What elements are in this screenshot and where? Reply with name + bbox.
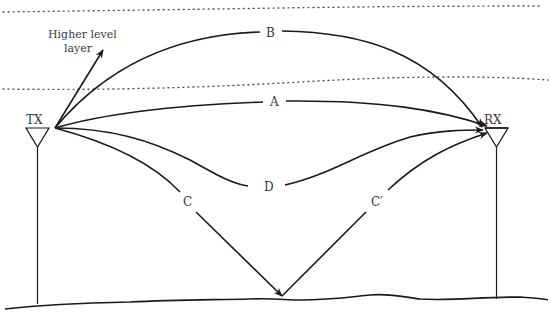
- ground-line: [5, 295, 548, 309]
- layer-label-line2: layer: [64, 42, 93, 55]
- tx-label: TX: [26, 113, 43, 127]
- layer-label-line1: Higher level: [48, 28, 117, 41]
- path-b-label: B: [266, 26, 275, 40]
- path-c: [55, 128, 180, 192]
- tx-antenna-icon: [26, 128, 49, 147]
- path-d-right: [285, 130, 483, 185]
- rx-label: RX: [484, 113, 502, 127]
- path-c-prime-label: C′: [371, 195, 383, 209]
- path-a-right: [286, 101, 487, 126]
- path-c-label: C: [183, 195, 192, 209]
- path-d-label: D: [264, 180, 274, 194]
- path-a: [55, 102, 263, 128]
- upper-layer-boundary: [3, 6, 540, 12]
- rx-antenna-icon: [485, 128, 508, 147]
- path-c-lower: [196, 212, 282, 296]
- path-b-right: [282, 31, 482, 127]
- path-c-prime-lower: [282, 212, 366, 296]
- propagation-diagram: Higher level layer B A D C C′ TX RX: [0, 0, 551, 314]
- path-a-label: A: [269, 95, 279, 109]
- path-c-prime-upper: [388, 133, 487, 190]
